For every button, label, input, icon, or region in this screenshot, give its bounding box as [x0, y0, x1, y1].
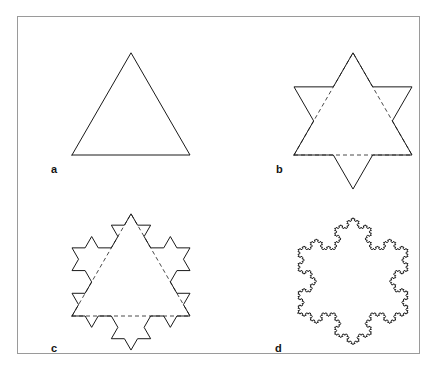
- panel-label-a: a: [51, 164, 57, 175]
- panel-a-triangle: [48, 39, 208, 165]
- panel-label-d: d: [275, 343, 282, 354]
- panel-c-initiator-dashed-path: [72, 214, 190, 316]
- panel-c-koch-path: [72, 214, 190, 350]
- panel-b-initiator-dashed-path: [294, 53, 412, 155]
- panel-a-svg: [48, 39, 208, 165]
- panel-d-koch-snowflake: [270, 205, 430, 353]
- figure-frame: a b c d: [17, 16, 420, 354]
- panel-c-second-iteration: [48, 205, 208, 353]
- panel-a-koch-path: [72, 53, 190, 155]
- panel-label-b: b: [276, 164, 283, 175]
- figure-root: a b c d: [0, 0, 439, 372]
- panel-label-c: c: [51, 343, 57, 354]
- panel-b-koch-path: [294, 53, 412, 189]
- panel-b-star-of-david: [270, 39, 430, 197]
- panel-c-svg: [48, 205, 208, 353]
- panel-d-svg: [270, 205, 430, 353]
- panel-b-svg: [270, 39, 430, 197]
- panel-d-koch-path: [298, 218, 408, 345]
